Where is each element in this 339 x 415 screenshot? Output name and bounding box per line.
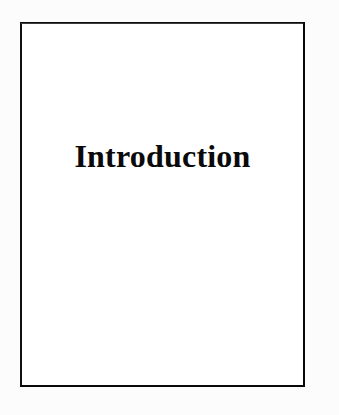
blank-area-above-title (22, 24, 303, 116)
page-interior: Introduction (22, 24, 303, 385)
page-border-rectangle: Introduction (20, 22, 305, 387)
blank-area-below-title (22, 156, 303, 385)
scanned-page: Introduction (0, 0, 339, 415)
